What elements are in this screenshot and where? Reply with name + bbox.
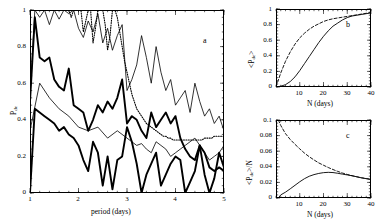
panel-a-yaxis-title: Pde bbox=[10, 106, 20, 115]
panel-a-ytick-08: 0.8 bbox=[4, 43, 26, 50]
panel-b-ytick-0: 0 bbox=[252, 83, 272, 90]
series-solid bbox=[276, 13, 371, 87]
panel-b-ticks bbox=[276, 9, 371, 87]
panel-a-xaxis-title: period (days) bbox=[91, 208, 131, 216]
panel-a-ytick-06: 0.6 bbox=[4, 80, 26, 87]
panel-a-canvas bbox=[30, 10, 224, 193]
panel-a-xtick-1: 1 bbox=[22, 196, 38, 203]
panel-c-xtick-30: 30 bbox=[340, 201, 354, 208]
panel-a-tag: a bbox=[203, 36, 207, 45]
panel-b-tag: b bbox=[346, 20, 350, 29]
panel-a-xtick-2: 2 bbox=[70, 196, 86, 203]
panel-b-xtick-10: 10 bbox=[292, 90, 306, 97]
panel-a-yaxis-title-main: P bbox=[9, 111, 18, 115]
panel-c-xtick-20: 20 bbox=[316, 201, 330, 208]
panel-b-xtick-20: 20 bbox=[316, 90, 330, 97]
panel-c-xtick-10: 10 bbox=[292, 201, 306, 208]
panel-a: 1 0.8 0.6 0.4 0.2 0 1 2 3 4 5 period (da… bbox=[0, 0, 236, 223]
panel-b-ytick-02: 0.2 bbox=[248, 68, 272, 75]
panel-b-xtick-30: 30 bbox=[340, 90, 354, 97]
panel-b-yaxis-title-post: > bbox=[247, 51, 256, 55]
panel-a-ytick-1: 1 bbox=[8, 7, 26, 14]
panel-b: 1 0.8 0.6 0.4 0.2 0 10 20 30 40 N (days)… bbox=[236, 0, 377, 110]
panel-a-xtick-3: 3 bbox=[119, 196, 135, 203]
panel-a-xtick-5: 5 bbox=[216, 196, 232, 203]
panel-c-ytick-008: 0.08 bbox=[242, 132, 272, 139]
panel-c-xtick-40: 40 bbox=[364, 201, 377, 208]
panel-b-ytick-06: 0.6 bbox=[248, 37, 272, 44]
panel-c-tag: c bbox=[346, 131, 350, 140]
panel-b-yaxis-title-sub: de bbox=[251, 55, 256, 60]
panel-a-xtick-4: 4 bbox=[167, 196, 183, 203]
panel-c-canvas bbox=[276, 120, 371, 198]
series-thick-solid-mid bbox=[30, 17, 224, 171]
series-dashed bbox=[276, 13, 371, 87]
panel-c: 0.1 0.08 0.06 0.04 0.02 0 10 20 30 40 N … bbox=[236, 111, 377, 223]
panel-c-xaxis-title: N (days) bbox=[307, 211, 333, 219]
panel-a-ytick-0: 0 bbox=[8, 189, 26, 196]
panel-a-yaxis-title-sub: de bbox=[13, 106, 18, 111]
figure-root: 1 0.8 0.6 0.4 0.2 0 1 2 3 4 5 period (da… bbox=[0, 0, 377, 223]
panel-c-ytick-0: 0 bbox=[252, 194, 272, 201]
series-dashed bbox=[278, 120, 371, 179]
panel-a-ytick-04: 0.4 bbox=[4, 116, 26, 123]
panel-c-yaxis-title-sub: de bbox=[249, 172, 254, 177]
series-solid bbox=[278, 172, 371, 198]
panel-c-yaxis-title-pre: <P bbox=[245, 177, 254, 185]
panel-b-series-group bbox=[276, 13, 371, 87]
panel-c-ytick-01: 0.1 bbox=[246, 117, 272, 124]
panel-b-ytick-08: 0.8 bbox=[248, 21, 272, 28]
panel-c-yaxis-title: <Pde>/N bbox=[246, 160, 256, 185]
panel-c-yaxis-title-post: >/N bbox=[245, 160, 254, 172]
panel-b-canvas bbox=[276, 9, 371, 87]
panel-b-ytick-1: 1 bbox=[252, 6, 272, 13]
panel-c-ticks bbox=[276, 120, 371, 198]
panel-a-ticks bbox=[30, 10, 224, 193]
panel-a-ytick-02: 0.2 bbox=[4, 153, 26, 160]
panel-b-yaxis-title-pre: <P bbox=[247, 60, 256, 68]
panel-c-ytick-006: 0.06 bbox=[242, 148, 272, 155]
panel-c-series-group bbox=[278, 120, 371, 198]
panel-b-xtick-40: 40 bbox=[364, 90, 377, 97]
panel-b-yaxis-title: <Pde> bbox=[248, 51, 258, 68]
panel-b-xaxis-title: N (days) bbox=[307, 100, 333, 108]
panel-a-series-group bbox=[30, 10, 224, 193]
